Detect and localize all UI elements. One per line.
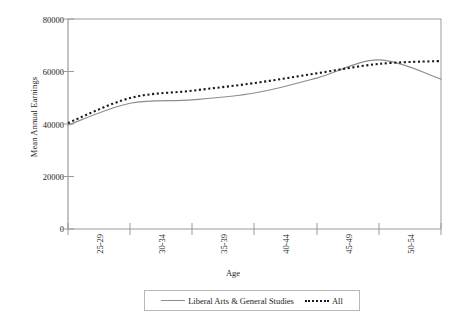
dotted-line-swatch-icon bbox=[305, 300, 329, 302]
chart-legend: Liberal Arts & General Studies All bbox=[144, 290, 360, 311]
x-axis-title: Age bbox=[0, 268, 466, 278]
legend-item-all: All bbox=[305, 296, 343, 306]
chart-container: Mean Annual Earnings 80000 60000 40000 2… bbox=[0, 0, 466, 323]
legend-label-all: All bbox=[332, 296, 343, 306]
legend-item-liberal-arts: Liberal Arts & General Studies bbox=[161, 296, 294, 306]
legend-label-liberal-arts: Liberal Arts & General Studies bbox=[188, 296, 294, 306]
solid-line-swatch-icon bbox=[161, 300, 185, 301]
